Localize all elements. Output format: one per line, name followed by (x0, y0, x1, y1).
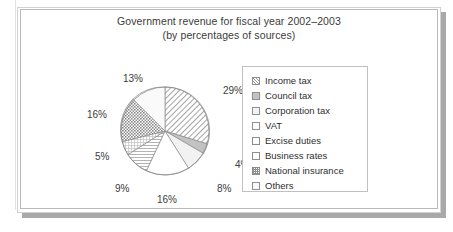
pie-value-label-others: 13% (123, 73, 143, 84)
chart-legend: Income tax Council tax Corporation tax V… (242, 66, 368, 192)
legend-swatch-national-insurance-icon (252, 167, 260, 175)
legend-label-national-insurance: National insurance (265, 165, 344, 176)
legend-label-income-tax: Income tax (265, 75, 311, 86)
legend-swatch-excise-duties-icon (252, 137, 260, 145)
legend-item-income-tax[interactable]: Income tax (252, 73, 364, 88)
legend-item-business-rates[interactable]: Business rates (252, 148, 364, 163)
chart-screenshot: Government revenue for fiscal year 2002–… (0, 0, 453, 232)
legend-item-excise-duties[interactable]: Excise duties (252, 133, 364, 148)
pie-value-label-income-tax: 29% (223, 85, 243, 96)
legend-label-corporation-tax: Corporation tax (265, 105, 330, 116)
pie-value-label-corporation-tax: 8% (217, 183, 231, 194)
legend-item-list: Income tax Council tax Corporation tax V… (252, 73, 364, 193)
legend-swatch-others-icon (252, 182, 260, 190)
legend-label-business-rates: Business rates (265, 150, 327, 161)
pie-value-label-business-rates: 5% (95, 151, 109, 162)
pie-chart: 29% 4% 8% 16% 9% 5% 16% 13% (95, 61, 235, 201)
left-edge-rule (15, 0, 16, 210)
legend-swatch-vat-icon (252, 122, 260, 130)
legend-label-excise-duties: Excise duties (265, 135, 321, 146)
legend-label-council-tax: Council tax (265, 90, 312, 101)
legend-item-others[interactable]: Others (252, 178, 364, 193)
pie-slices (120, 87, 209, 175)
legend-swatch-business-rates-icon (252, 152, 260, 160)
legend-swatch-income-tax-icon (252, 77, 260, 85)
pie-value-label-vat: 16% (157, 194, 177, 205)
legend-swatch-corporation-tax-icon (252, 107, 260, 115)
chart-plot-area: 29% 4% 8% 16% 9% 5% 16% 13% Income tax C… (20, 9, 438, 209)
pie-value-label-national-insurance: 16% (87, 109, 107, 120)
legend-label-others: Others (265, 180, 294, 191)
legend-label-vat: VAT (265, 120, 282, 131)
legend-item-corporation-tax[interactable]: Corporation tax (252, 103, 364, 118)
legend-item-council-tax[interactable]: Council tax (252, 88, 364, 103)
legend-swatch-council-tax-icon (252, 92, 260, 100)
legend-item-vat[interactable]: VAT (252, 118, 364, 133)
pie-value-label-excise-duties: 9% (115, 183, 129, 194)
pie-chart-svg (95, 61, 235, 201)
legend-item-national-insurance[interactable]: National insurance (252, 163, 364, 178)
